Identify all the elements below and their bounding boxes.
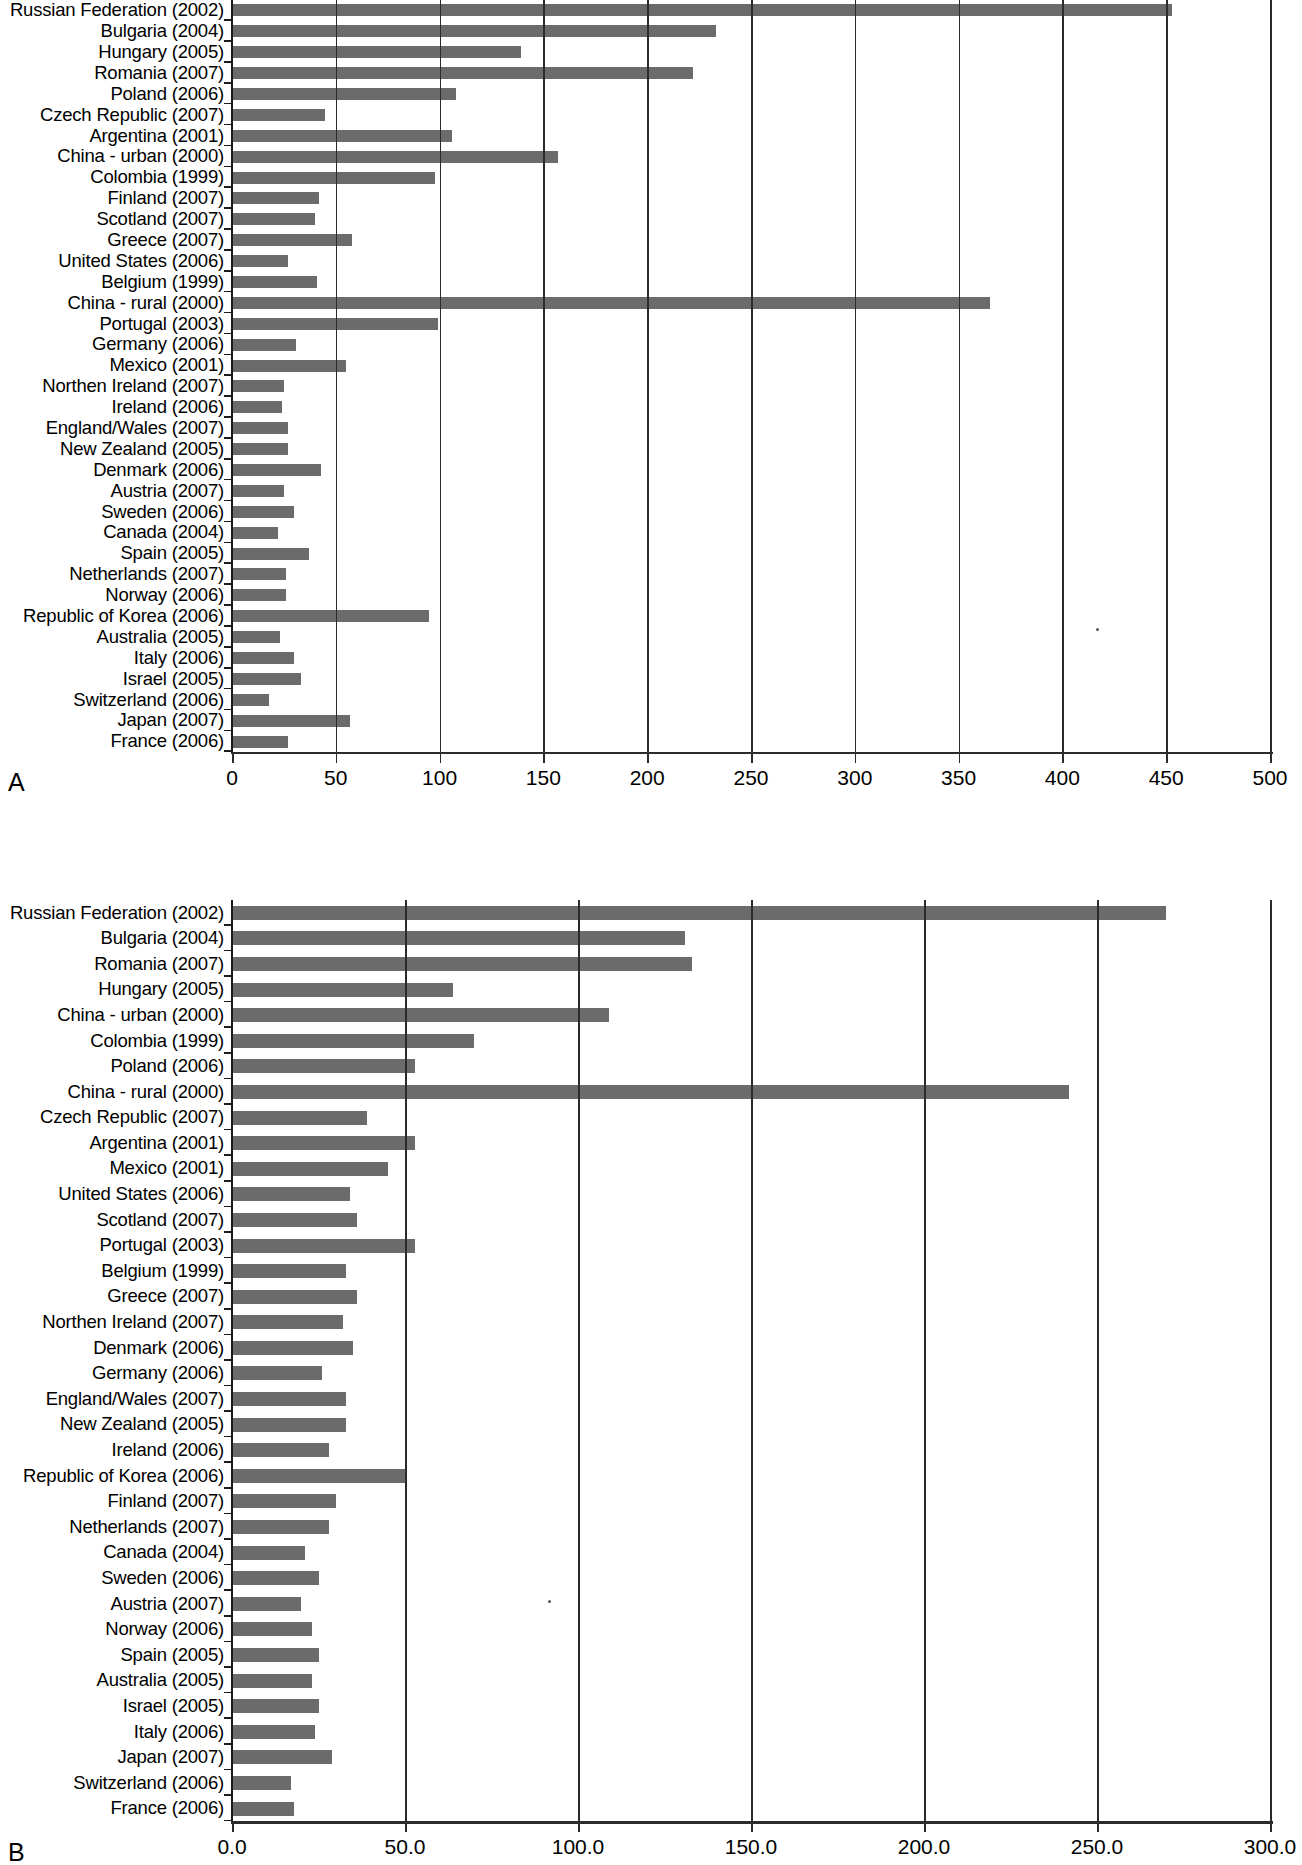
x-axis-tick-label: 0 [226, 766, 238, 790]
bar-cell [232, 313, 1302, 334]
bar [232, 443, 288, 455]
bar-row: Norway (2006) [0, 1617, 1302, 1643]
category-label: England/Wales (2007) [0, 1390, 232, 1409]
bar-row: Portugal (2003) [0, 313, 1302, 334]
bar-cell [232, 1079, 1302, 1105]
bar-row: Austria (2007) [0, 1591, 1302, 1617]
image-speck [548, 1600, 551, 1603]
bar [232, 401, 282, 413]
bar-row: Israel (2005) [0, 669, 1302, 690]
bar-cell [232, 689, 1302, 710]
bar [232, 1802, 294, 1816]
category-label: Hungary (2005) [0, 43, 232, 62]
category-label: Portugal (2003) [0, 1236, 232, 1255]
x-axis-tick-label: 200.0 [898, 1835, 951, 1859]
bar [232, 957, 692, 971]
bar-cell [232, 900, 1302, 926]
bar-cell [232, 1182, 1302, 1208]
bar [232, 1750, 332, 1764]
category-label: Republic of Korea (2006) [0, 1467, 232, 1486]
category-label: Colombia (1999) [0, 168, 232, 187]
x-axis-tick-label: 100.0 [552, 1835, 605, 1859]
x-axis-tick [855, 752, 857, 763]
x-axis-tick-label: 150 [526, 766, 561, 790]
bar [232, 1008, 609, 1022]
bar-cell [232, 627, 1302, 648]
bar-row: Japan (2007) [0, 710, 1302, 731]
bar-row: Canada (2004) [0, 1540, 1302, 1566]
bar-row: Russian Federation (2002) [0, 0, 1302, 21]
bar-cell [232, 1284, 1302, 1310]
bar-row: Austria (2007) [0, 480, 1302, 501]
x-axis-tick [1270, 752, 1272, 763]
bar-row: Poland (2006) [0, 84, 1302, 105]
bar [232, 715, 350, 727]
bar-cell [232, 1233, 1302, 1259]
bar-row: Finland (2007) [0, 188, 1302, 209]
bar-cell [232, 731, 1302, 752]
bar [232, 318, 438, 330]
x-axis-tick [924, 1821, 926, 1832]
category-label: Israel (2005) [0, 670, 232, 689]
bar-cell [232, 669, 1302, 690]
bar [232, 25, 716, 37]
bar [232, 67, 693, 79]
bar-row: France (2006) [0, 1796, 1302, 1822]
category-label: Czech Republic (2007) [0, 106, 232, 125]
bar-cell [232, 1642, 1302, 1668]
panel-a: Russian Federation (2002)Bulgaria (2004)… [0, 0, 1302, 900]
category-label: Norway (2006) [0, 1620, 232, 1639]
bar-cell [232, 125, 1302, 146]
bar-row: Argentina (2001) [0, 125, 1302, 146]
bar-cell [232, 1719, 1302, 1745]
bar [232, 1520, 329, 1534]
bar [232, 1392, 346, 1406]
category-label: Republic of Korea (2006) [0, 607, 232, 626]
bar-cell [232, 606, 1302, 627]
bar-row: Russian Federation (2002) [0, 900, 1302, 926]
category-label: Poland (2006) [0, 85, 232, 104]
bar-row: France (2006) [0, 731, 1302, 752]
category-label: France (2006) [0, 732, 232, 751]
bar-row: Australia (2005) [0, 1668, 1302, 1694]
bar [232, 736, 288, 748]
category-label: China - urban (2000) [0, 147, 232, 166]
bar-cell [232, 209, 1302, 230]
bar-row: Portugal (2003) [0, 1233, 1302, 1259]
category-label: Finland (2007) [0, 189, 232, 208]
bar-row: China - rural (2000) [0, 1079, 1302, 1105]
category-label: Russian Federation (2002) [0, 1, 232, 20]
category-label: Switzerland (2006) [0, 1774, 232, 1793]
bar [232, 1315, 343, 1329]
bar-cell [232, 1796, 1302, 1822]
bar-cell [232, 1437, 1302, 1463]
bar-row: Switzerland (2006) [0, 1770, 1302, 1796]
bar [232, 631, 280, 643]
bar [232, 506, 294, 518]
x-axis-tick [959, 752, 961, 763]
bar-cell [232, 84, 1302, 105]
bar-row: Czech Republic (2007) [0, 104, 1302, 125]
bar [232, 1725, 315, 1739]
bar [232, 485, 284, 497]
bar-cell [232, 1412, 1302, 1438]
bar [232, 1162, 388, 1176]
bar [232, 88, 456, 100]
bar-row: England/Wales (2007) [0, 418, 1302, 439]
x-axis-tick [578, 1821, 580, 1832]
bar-row: United States (2006) [0, 251, 1302, 272]
bar [232, 130, 452, 142]
bar-row: Greece (2007) [0, 230, 1302, 251]
bar-cell [232, 1591, 1302, 1617]
bar-row: Sweden (2006) [0, 1565, 1302, 1591]
panel-b-letter: B [8, 1840, 25, 1865]
x-axis-tick-label: 50.0 [385, 1835, 426, 1859]
category-label: Russian Federation (2002) [0, 904, 232, 923]
category-label: Poland (2006) [0, 1057, 232, 1076]
panel-a-x-ticks [0, 752, 1302, 766]
bar [232, 548, 309, 560]
bar-row: Colombia (1999) [0, 1028, 1302, 1054]
category-label: Northen Ireland (2007) [0, 377, 232, 396]
category-label: Romania (2007) [0, 64, 232, 83]
x-axis-tick [1270, 1821, 1272, 1832]
